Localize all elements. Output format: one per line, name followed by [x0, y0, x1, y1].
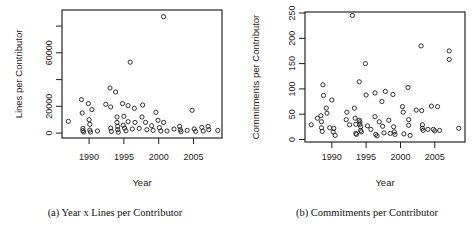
y-tick-label: 0	[287, 137, 297, 142]
data-point	[116, 130, 120, 134]
data-point	[414, 108, 418, 112]
data-point	[309, 123, 313, 127]
plot-b: 1990199520002005050100150200250	[287, 5, 465, 162]
data-point	[126, 120, 130, 124]
data-point	[141, 103, 145, 107]
y-tick-label: 250	[287, 5, 297, 20]
data-point	[369, 127, 373, 131]
plot-b-caption: (b) Commitments per Contributor	[296, 207, 439, 219]
data-point	[126, 104, 130, 108]
x-tick-label: 1990	[322, 152, 342, 162]
data-point	[324, 106, 328, 110]
data-point	[377, 120, 381, 124]
data-point	[172, 127, 176, 131]
data-point	[145, 128, 149, 132]
data-point	[388, 131, 392, 135]
data-point	[333, 133, 337, 137]
data-point	[383, 89, 387, 93]
data-point	[352, 106, 356, 110]
y-tick-label: 60000	[44, 40, 54, 65]
data-point	[150, 124, 154, 128]
data-point	[114, 90, 118, 94]
data-point	[392, 125, 396, 129]
x-tick-label: 2005	[425, 152, 445, 162]
y-tick-label: 100	[287, 81, 297, 96]
x-tick-label: 1990	[79, 152, 99, 162]
x-tick-label: 1995	[114, 152, 134, 162]
data-point	[345, 110, 349, 114]
data-point	[151, 128, 155, 132]
data-point	[120, 102, 124, 106]
data-point	[143, 120, 147, 124]
data-point	[122, 114, 126, 118]
data-point	[387, 118, 391, 122]
data-point	[419, 44, 423, 48]
x-tick-label: 1995	[356, 152, 376, 162]
plot-b-xlabel: Year	[375, 177, 394, 188]
data-point	[140, 115, 144, 119]
data-point	[381, 124, 385, 128]
data-point	[400, 105, 404, 109]
data-point	[426, 127, 430, 131]
data-point	[350, 13, 354, 17]
data-point	[344, 118, 348, 122]
data-point	[108, 86, 112, 90]
data-point	[185, 128, 189, 132]
data-point	[373, 115, 377, 119]
data-point	[130, 127, 134, 131]
data-point	[156, 118, 160, 122]
x-tick-label: 2005	[183, 152, 203, 162]
data-point	[438, 128, 442, 132]
data-point	[115, 120, 119, 124]
y-tick-label: 50	[287, 109, 297, 119]
data-point	[95, 129, 99, 133]
data-point	[137, 126, 141, 130]
data-point	[165, 129, 169, 133]
data-point	[80, 111, 84, 115]
data-point	[162, 15, 166, 19]
data-point	[363, 62, 367, 66]
data-point	[348, 123, 352, 127]
data-point	[408, 133, 412, 137]
data-point	[321, 93, 325, 97]
data-point	[420, 109, 424, 113]
plot-a: 199019952000200502000060000	[44, 10, 222, 162]
y-tick-label: 20000	[44, 94, 54, 119]
data-point	[429, 104, 433, 108]
data-point	[373, 91, 377, 95]
data-point	[365, 124, 369, 128]
data-point	[87, 118, 91, 122]
x-tick-label: 2000	[149, 152, 169, 162]
data-point	[321, 83, 325, 87]
data-point	[109, 105, 113, 109]
data-point	[79, 98, 83, 102]
data-point	[132, 106, 136, 110]
data-point	[407, 118, 411, 122]
data-point	[447, 57, 451, 61]
plot-a-caption: (a) Year x Lines per Contributor	[48, 207, 183, 219]
data-point	[88, 122, 92, 126]
data-point	[354, 122, 358, 126]
data-point	[406, 85, 410, 89]
data-point	[447, 49, 451, 53]
x-tick-label: 2000	[390, 152, 410, 162]
data-point	[154, 110, 158, 114]
data-point	[330, 98, 334, 102]
data-point	[328, 126, 332, 130]
data-point	[364, 93, 368, 97]
y-tick-label: 0	[44, 131, 54, 136]
data-point	[162, 120, 166, 124]
data-point	[115, 115, 119, 119]
data-point	[357, 80, 361, 84]
data-point	[216, 128, 220, 132]
y-tick-label: 200	[287, 31, 297, 46]
data-point	[391, 92, 395, 96]
data-point	[393, 132, 397, 136]
data-point	[190, 108, 194, 112]
data-point	[457, 126, 461, 130]
data-point	[353, 116, 357, 120]
data-point	[382, 131, 386, 135]
data-point	[380, 99, 384, 103]
data-point	[325, 111, 329, 115]
data-point	[104, 102, 108, 106]
